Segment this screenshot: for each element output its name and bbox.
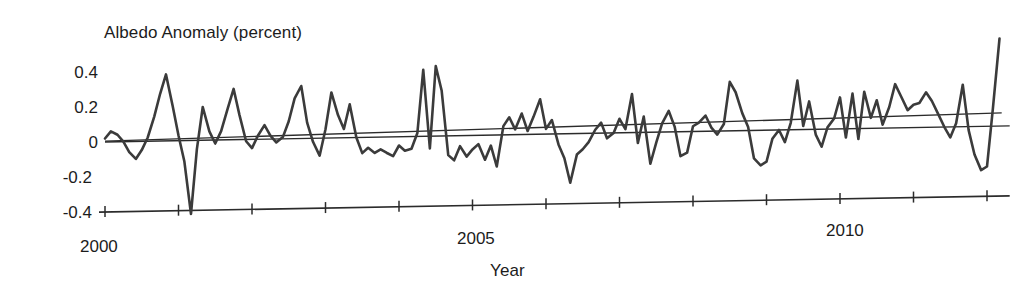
x-axis-line xyxy=(99,196,1010,212)
albedo-anomaly-chart: Albedo Anomaly (percent) 0.4 0.2 0 -0.2 … xyxy=(0,0,1032,301)
plot-area xyxy=(0,0,1032,301)
x-axis-tick-marks xyxy=(105,190,987,217)
data-series-line xyxy=(105,39,1000,214)
